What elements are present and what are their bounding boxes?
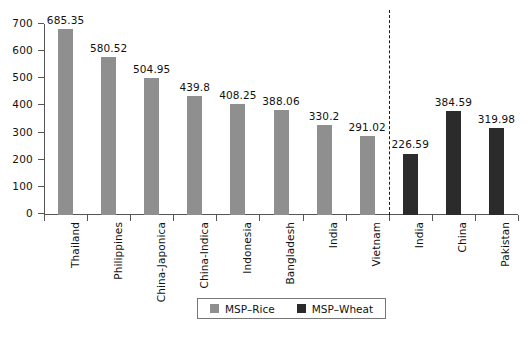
category-label: Indonesia <box>242 222 253 274</box>
bar-value-label: 388.06 <box>262 95 299 107</box>
category-label: China-Indica <box>199 222 210 289</box>
y-axis-tick-label: 700 <box>0 16 33 31</box>
x-axis-tick-mark <box>475 215 476 221</box>
legend-item-msp-rice[interactable]: MSP–Rice <box>210 303 275 315</box>
y-axis-tick-label: 300 <box>0 125 33 140</box>
legend-swatch-icon-msp-rice <box>210 304 219 313</box>
bar <box>489 128 504 215</box>
x-axis-tick-mark <box>518 215 519 221</box>
y-axis-tick-label: 400 <box>0 97 33 112</box>
legend-label-msp-wheat: MSP–Wheat <box>312 303 373 315</box>
y-axis-tick-label: 600 <box>0 43 33 58</box>
legend: MSP–Rice MSP–Wheat <box>197 298 386 319</box>
category-label: Thailand <box>70 222 81 268</box>
bar <box>230 104 245 215</box>
x-axis-tick-mark <box>259 215 260 221</box>
bar-value-label: 226.59 <box>392 138 429 150</box>
bar-value-label: 408.25 <box>219 89 256 101</box>
bar <box>403 154 418 216</box>
group-divider-dashed-line <box>389 10 390 215</box>
bar <box>317 125 332 215</box>
legend-label-msp-rice: MSP–Rice <box>225 303 275 315</box>
x-axis-tick-mark <box>303 215 304 221</box>
y-axis-tick-label: 100 <box>0 179 33 194</box>
bar <box>360 136 375 215</box>
bar <box>144 78 159 215</box>
category-label: Pakistan <box>500 222 511 267</box>
bar <box>58 29 73 215</box>
y-axis-tick-label: 0 <box>0 206 33 221</box>
x-axis-tick-mark <box>87 215 88 221</box>
category-label: China <box>457 222 468 253</box>
bar-value-label: 384.59 <box>435 96 472 108</box>
x-axis-tick-mark <box>44 215 45 221</box>
bar-chart: 0100200300400500600700 685.35580.52504.9… <box>0 0 531 337</box>
x-axis-tick-mark <box>432 215 433 221</box>
bar-value-label: 580.52 <box>90 42 127 54</box>
y-axis-tick-label: 200 <box>0 152 33 167</box>
category-label: India <box>414 222 425 248</box>
bar-value-label: 439.8 <box>180 81 211 93</box>
category-label: Bangladesh <box>285 222 296 285</box>
x-axis-tick-mark <box>389 215 390 221</box>
y-axis-tick-label: 500 <box>0 70 33 85</box>
bar <box>101 57 116 215</box>
legend-swatch-icon-msp-wheat <box>297 304 306 313</box>
bar-value-label: 504.95 <box>133 63 170 75</box>
category-label: Vietnam <box>371 222 382 266</box>
legend-item-msp-wheat[interactable]: MSP–Wheat <box>297 303 373 315</box>
x-axis-tick-mark <box>173 215 174 221</box>
bar <box>446 111 461 215</box>
bar-value-label: 330.2 <box>309 110 340 122</box>
x-axis-tick-mark <box>346 215 347 221</box>
bar <box>187 96 202 215</box>
category-label: Philippines <box>113 222 124 280</box>
bar-value-label: 319.98 <box>478 113 515 125</box>
category-label: China-Japonica <box>156 222 167 302</box>
category-label: India <box>328 222 339 248</box>
x-axis-tick-mark <box>130 215 131 221</box>
bar-value-label: 291.02 <box>349 121 386 133</box>
bar <box>274 110 289 215</box>
bar-value-label: 685.35 <box>47 14 84 26</box>
x-axis-tick-mark <box>216 215 217 221</box>
